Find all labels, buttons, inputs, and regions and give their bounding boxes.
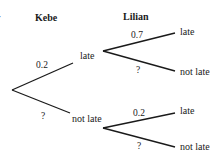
outcome-lilian-late-given-not-late: late (180, 106, 194, 116)
outcome-kebe-late: late (80, 51, 94, 61)
outcome-lilian-not-late-given-not-late: not late (180, 142, 210, 152)
prob-kebe-late: 0.2 (36, 60, 48, 70)
tree-branches (0, 0, 220, 156)
probability-tree-diagram: r Kebe Lilian 0.2 late ? not late 0.7 la… (0, 0, 220, 156)
branch-kebe-not-late (12, 90, 70, 113)
prob-lilian-not-late-given-late: ? (136, 65, 140, 75)
header-kebe: Kebe (35, 13, 57, 23)
outcome-lilian-late-given-late: late (180, 27, 194, 37)
prob-lilian-late-given-not-late: 0.2 (133, 108, 145, 118)
prob-lilian-not-late-given-not-late: ? (137, 141, 141, 151)
header-lilian: Lilian (123, 12, 149, 22)
outcome-lilian-not-late-given-late: not late (180, 67, 210, 77)
prob-lilian-late-given-late: 0.7 (131, 30, 143, 40)
outcome-kebe-not-late: not late (72, 114, 102, 124)
prob-kebe-not-late: ? (41, 111, 45, 121)
